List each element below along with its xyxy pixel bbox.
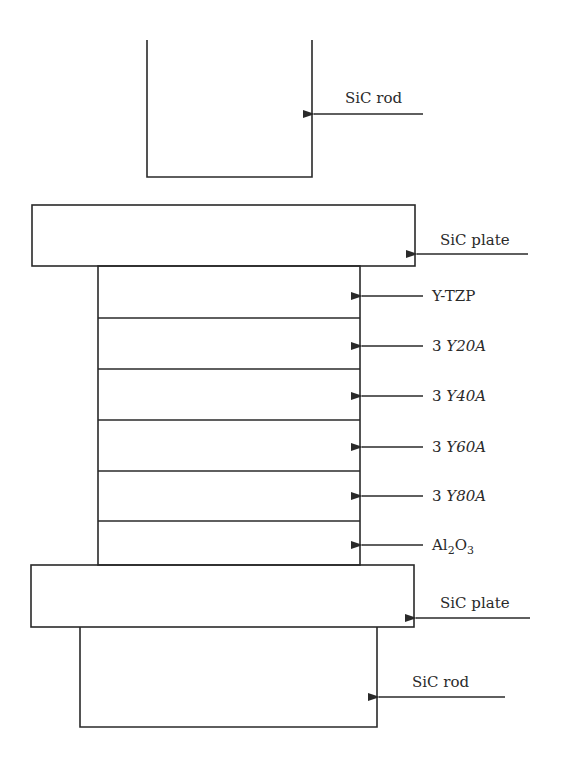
top-sic-plate [32,205,415,266]
al2o3-sub-3: 3 [467,544,474,557]
al2o3-label: Al2O3 [431,536,474,557]
3y40a-label: 3 Y40A [432,387,486,405]
y-tzp-label: Y-TZP [431,287,475,305]
al2o3-al: Al [431,536,448,554]
fgm-sintering-setup-diagram: SiC rod SiC plate Y-TZP 3 Y20A 3 Y40A 3 … [0,0,576,758]
3y60a-prefix: 3 [432,438,446,456]
bottom-sic-plate [31,565,414,627]
al2o3-sub-2: 2 [448,544,455,557]
layer-stack [98,266,360,565]
3y60a-label: 3 Y60A [432,438,486,456]
top-rod-label: SiC rod [345,89,403,107]
3y20a-prefix: 3 [432,337,446,355]
top-plate-label: SiC plate [440,231,510,249]
3y80a-label: 3 Y80A [432,487,486,505]
bottom-plate-label: SiC plate [440,594,510,612]
al2o3-o: O [455,536,467,554]
top-sic-rod [147,40,312,177]
3y20a-label: 3 Y20A [432,337,486,355]
3y20a-suffix: Y20A [446,337,486,355]
bottom-sic-rod [80,627,377,727]
bottom-rod-label: SiC rod [412,673,470,691]
3y80a-prefix: 3 [432,487,446,505]
3y40a-prefix: 3 [432,387,446,405]
3y60a-suffix: Y60A [446,438,486,456]
3y80a-suffix: Y80A [446,487,486,505]
3y40a-suffix: Y40A [446,387,486,405]
